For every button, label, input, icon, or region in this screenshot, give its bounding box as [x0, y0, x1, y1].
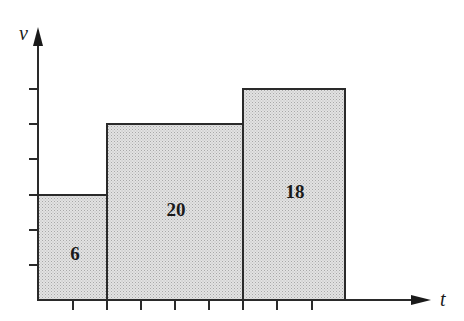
- bar-3-label: 18: [286, 181, 305, 202]
- y-axis-label: v: [19, 22, 28, 44]
- x-axis-arrow-icon: [411, 295, 431, 305]
- velocity-time-chart: 6 20 18 v t: [0, 0, 464, 321]
- y-axis-arrow-icon: [33, 27, 43, 46]
- x-axis: [37, 300, 414, 310]
- bar-1-label: 6: [70, 243, 80, 264]
- x-axis-label: t: [440, 288, 446, 310]
- y-axis: [29, 42, 38, 301]
- bar-2-label: 20: [167, 199, 186, 220]
